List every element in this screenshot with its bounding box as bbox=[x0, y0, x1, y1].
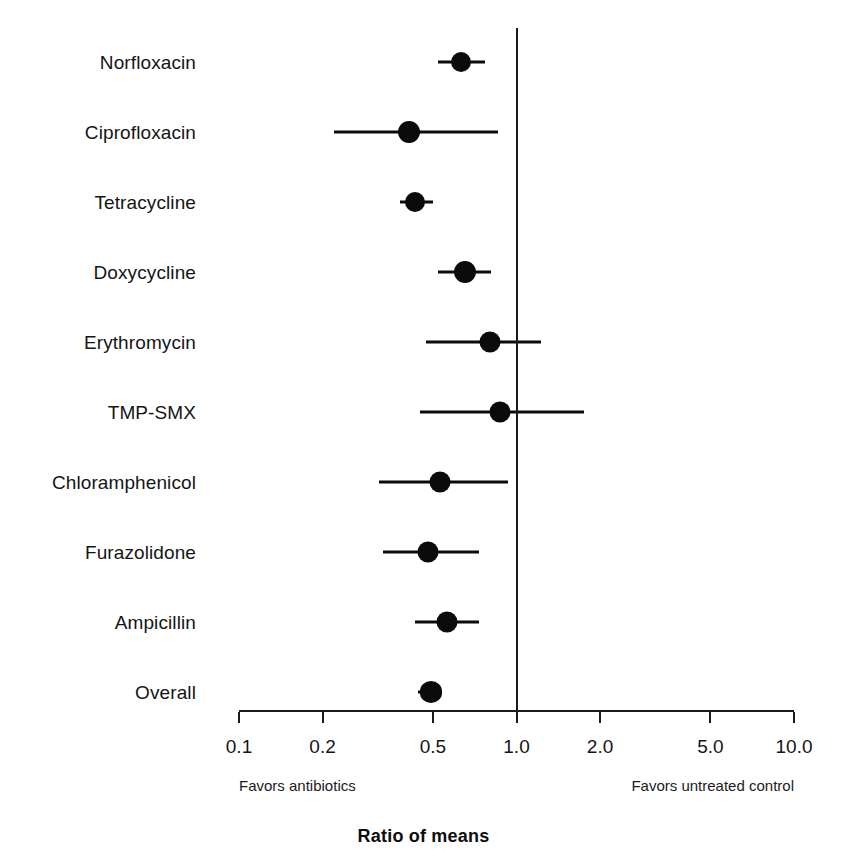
study-label-tmp-smx: TMP-SMX bbox=[108, 403, 196, 422]
study-label-furazolidone: Furazolidone bbox=[85, 543, 196, 562]
study-label-chloramphenicol: Chloramphenicol bbox=[52, 473, 196, 492]
study-label-erythromycin: Erythromycin bbox=[84, 333, 196, 352]
study-label-tetracycline: Tetracycline bbox=[94, 193, 196, 212]
point-estimate-marker bbox=[479, 332, 500, 353]
point-estimate-marker bbox=[436, 612, 457, 633]
x-axis-tick bbox=[432, 712, 434, 723]
study-label-doxycycline: Doxycycline bbox=[94, 263, 196, 282]
point-estimate-marker bbox=[418, 542, 439, 563]
study-label-ampicillin: Ampicillin bbox=[115, 613, 196, 632]
x-axis-tick-label: 5.0 bbox=[697, 737, 723, 756]
x-axis-tick bbox=[238, 712, 240, 723]
favors-untreated-control-label: Favors untreated control bbox=[0, 778, 794, 793]
study-label-overall: Overall bbox=[135, 683, 196, 702]
x-axis-tick-label: 0.2 bbox=[309, 737, 335, 756]
point-estimate-marker bbox=[398, 121, 420, 143]
point-estimate-marker bbox=[451, 52, 471, 72]
point-estimate-marker bbox=[429, 472, 450, 493]
point-estimate-marker bbox=[405, 192, 425, 212]
x-axis-tick-label: 1.0 bbox=[503, 737, 529, 756]
x-axis-tick bbox=[599, 712, 601, 723]
x-axis-tick bbox=[793, 712, 795, 723]
null-reference-line bbox=[516, 28, 518, 710]
study-label-norfloxacin: Norfloxacin bbox=[100, 53, 196, 72]
study-label-ciprofloxacin: Ciprofloxacin bbox=[85, 123, 196, 142]
x-axis-tick-label: 2.0 bbox=[587, 737, 613, 756]
x-axis-tick-label: 0.1 bbox=[226, 737, 252, 756]
x-axis-tick bbox=[516, 712, 518, 723]
x-axis-tick-label: 10.0 bbox=[776, 737, 813, 756]
x-axis-tick bbox=[322, 712, 324, 723]
point-estimate-marker bbox=[420, 681, 442, 703]
forest-plot: NorfloxacinCiprofloxacinTetracyclineDoxy… bbox=[0, 0, 847, 864]
x-axis-tick bbox=[709, 712, 711, 723]
point-estimate-marker bbox=[454, 261, 476, 283]
x-axis-tick-label: 0.5 bbox=[420, 737, 446, 756]
x-axis-title: Ratio of means bbox=[0, 827, 847, 845]
point-estimate-marker bbox=[489, 402, 510, 423]
